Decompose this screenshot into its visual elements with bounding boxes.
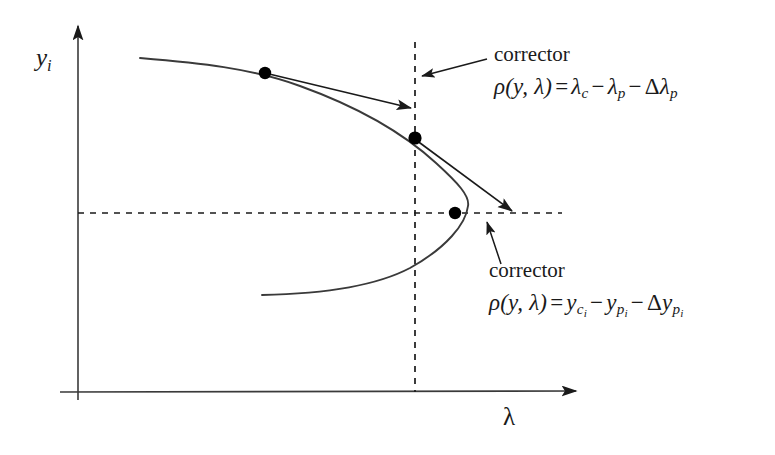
solution-point-middle <box>408 131 421 144</box>
predictor-tangent-upper <box>265 73 411 108</box>
term3-base-upper: λ <box>660 74 670 99</box>
annotation-equation-lower: ρ(y, λ)=yci−ypi−Δypi <box>489 290 684 321</box>
x-axis-line <box>60 391 576 392</box>
minus1-upper: − <box>588 74 607 99</box>
annotation-corrector-lambda: corrector ρ(y, λ)=λc−λp−Δλp <box>494 42 678 102</box>
term1-base-upper: λ <box>571 74 581 99</box>
rho-args-upper: (y, λ) <box>505 74 552 99</box>
equals-upper: = <box>552 74 571 99</box>
annotation-title-lower: corrector <box>489 258 684 282</box>
solution-point-upper <box>259 67 271 79</box>
x-axis-label: λ <box>503 403 515 431</box>
term1-base-lower: y <box>566 290 576 315</box>
term3-delta-lower: Δ <box>647 290 662 315</box>
rho-args-lower: (y, λ) <box>500 290 547 315</box>
equals-lower: = <box>547 290 566 315</box>
term3-delta-upper: Δ <box>645 74 660 99</box>
y-axis-label-base: y <box>36 44 47 71</box>
term1-sub-lower: ci <box>577 300 587 317</box>
equilibrium-path-curve <box>140 58 468 295</box>
rho-symbol-upper: ρ <box>494 74 505 99</box>
figure-canvas: yi λ corrector ρ(y, λ)=λc−λp−Δλp correct… <box>0 0 775 455</box>
predictor-tangent-middle <box>416 140 512 211</box>
minus1-lower: − <box>587 290 606 315</box>
y-axis-label: yi <box>36 44 52 76</box>
solution-point-lower <box>449 207 461 219</box>
minus2-upper: − <box>626 74 645 99</box>
rho-symbol-lower: ρ <box>489 290 500 315</box>
annotation-equation-upper: ρ(y, λ)=λc−λp−Δλp <box>494 74 678 102</box>
term2-base-upper: λ <box>608 74 618 99</box>
term3-base-lower: y <box>662 290 672 315</box>
annotation-corrector-y: corrector ρ(y, λ)=yci−ypi−Δypi <box>489 258 684 321</box>
y-axis-label-subscript: i <box>47 56 52 75</box>
term2-sub-lower: pi <box>617 300 628 317</box>
callout-arrow-upper <box>422 59 487 76</box>
term2-sub-upper: p <box>618 84 626 101</box>
minus2-lower: − <box>628 290 647 315</box>
term3-sub-lower: pi <box>672 300 683 317</box>
term3-subsub-lower: i <box>680 308 683 320</box>
term3-sub-upper: p <box>670 84 678 101</box>
term2-base-lower: y <box>606 290 616 315</box>
annotation-title-upper: corrector <box>494 42 678 66</box>
